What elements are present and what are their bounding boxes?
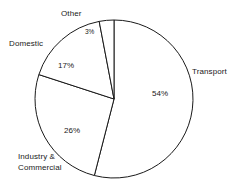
- slice-value-industry-commercial: 26%: [64, 126, 80, 135]
- slice-label-industry-commercial-line2: Commercial: [18, 163, 62, 173]
- slice-label-industry-commercial-line1: Industry &: [18, 152, 55, 162]
- slice-value-transport: 54%: [152, 89, 168, 98]
- pie-slices: [35, 20, 193, 178]
- slice-label-other: Other: [61, 9, 82, 19]
- pie-chart: Other Domestic Transport Industry & Comm…: [0, 0, 239, 186]
- slice-label-domestic: Domestic: [9, 39, 43, 49]
- slice-value-other: 3%: [85, 27, 94, 36]
- slice-value-domestic: 17%: [58, 61, 74, 70]
- slice-label-transport: Transport: [192, 67, 227, 77]
